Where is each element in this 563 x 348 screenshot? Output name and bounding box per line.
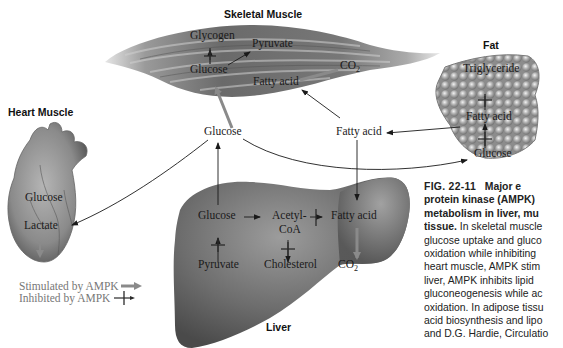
- liver-acetylcoa-label-line2: CoA: [279, 224, 301, 236]
- liver-pyruvate-label: Pyruvate: [198, 259, 239, 271]
- fat-title: Fat: [483, 40, 499, 51]
- liver-title: Liver: [266, 322, 291, 333]
- liver-cholesterol-label: Cholesterol: [264, 259, 317, 271]
- heart-muscle-title: Heart Muscle: [8, 107, 73, 118]
- muscle-fattyacid-label: Fatty acid: [253, 76, 299, 88]
- blood-fattyacid-label: Fatty acid: [336, 126, 382, 138]
- ampk-metabolism-diagram: Skeletal Muscle Fat Heart Muscle Liver G…: [0, 0, 563, 348]
- muscle-pyruvate-label: Pyruvate: [252, 38, 293, 50]
- arrow-blood-glucose-to-fat: [243, 139, 467, 169]
- caption-line-4: tissue. In skeletal muscle: [424, 220, 563, 233]
- arrow-fat-to-blood-fattyacid: [387, 127, 460, 133]
- caption-line-3: metabolism in liver, mu: [424, 207, 563, 220]
- caption-line-9: gluconeogenesis while ac: [424, 287, 563, 300]
- skeletal-muscle-title: Skeletal Muscle: [224, 9, 302, 20]
- caption-line-7: heart muscle, AMPK stim: [424, 260, 563, 273]
- figure-caption: FIG. 22-11 Major e protein kinase (AMPK)…: [424, 180, 563, 341]
- fat-glucose-label: Glucose: [474, 148, 512, 160]
- caption-line-2: protein kinase (AMPK): [424, 193, 563, 206]
- caption-line-8: liver, AMPK inhibits lipid: [424, 274, 563, 287]
- liver-glucose-label: Glucose: [198, 210, 236, 222]
- caption-line-12: and D.G. Hardie, Circulatio: [424, 327, 563, 340]
- heart-lactate-label: Lactate: [24, 220, 58, 232]
- heart-glucose-label: Glucose: [25, 192, 63, 204]
- muscle-glycogen-label: Glycogen: [190, 30, 235, 42]
- blood-glucose-label: Glucose: [204, 126, 242, 138]
- caption-line-1: FIG. 22-11 Major e: [424, 180, 563, 193]
- muscle-glucose-label: Glucose: [190, 64, 228, 76]
- fat-fattyacid-label: Fatty acid: [466, 111, 512, 123]
- liver-fattyacid-label: Fatty acid: [331, 210, 377, 222]
- legend-inhibited-label: Inhibited by AMPK: [19, 293, 110, 305]
- caption-line-11: acid biosynthesis and lipo: [424, 314, 563, 327]
- caption-line-5: glucose uptake and gluco: [424, 234, 563, 247]
- arrow-fattyacid-to-muscle: [302, 90, 340, 118]
- liver-co2-label: CO2: [338, 259, 358, 273]
- fat-triglyceride-label: Triglyceride: [463, 63, 519, 75]
- caption-line-10: oxidation. In adipose tissu: [424, 301, 563, 314]
- caption-line-6: oxidation while inhibiting: [424, 247, 563, 260]
- legend-stimulated-label: Stimulated by AMPK: [19, 281, 119, 293]
- muscle-co2-label: CO2: [340, 60, 360, 74]
- liver-acetylcoa-label-line1: Acetyl-: [272, 210, 306, 222]
